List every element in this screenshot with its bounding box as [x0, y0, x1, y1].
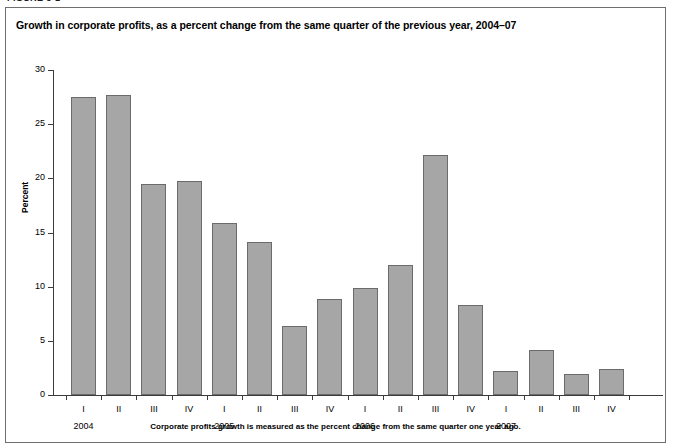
y-axis-tick-mark: [48, 178, 53, 179]
x-axis-quarter-label: IV: [456, 404, 486, 414]
y-axis-tick-label: 25: [35, 118, 45, 128]
x-axis-quarter-label: III: [280, 404, 310, 414]
y-axis-tick-mark: [48, 233, 53, 234]
y-axis-tick-label: 10: [35, 281, 45, 291]
chart-title: Growth in corporate profits, as a percen…: [16, 19, 516, 31]
bar: [423, 155, 448, 396]
x-axis-quarter-label: IV: [597, 404, 627, 414]
x-axis-tick-mark: [101, 395, 102, 400]
bar: [106, 95, 131, 395]
y-axis-tick-label: 30: [35, 64, 45, 74]
x-axis-quarter-label: II: [245, 404, 275, 414]
bar: [212, 223, 237, 395]
x-axis-tick-mark: [488, 395, 489, 400]
y-axis-tick-mark: [48, 70, 53, 71]
bar: [599, 369, 624, 395]
y-axis-tick-mark: [48, 287, 53, 288]
bar: [247, 242, 272, 395]
y-axis-tick-label: 15: [35, 227, 45, 237]
y-axis-tick-label: 5: [40, 335, 45, 345]
figure-panel: Growth in corporate profits, as a percen…: [5, 7, 666, 443]
x-axis-tick-mark: [383, 395, 384, 400]
x-axis-quarter-label: I: [209, 404, 239, 414]
x-axis-line: [53, 395, 663, 396]
x-axis-tick-mark: [136, 395, 137, 400]
x-axis-quarter-label: II: [104, 404, 134, 414]
x-axis-quarter-label: II: [385, 404, 415, 414]
x-axis-tick-mark: [594, 395, 595, 400]
x-axis-tick-mark: [524, 395, 525, 400]
y-axis-tick-label: 20: [35, 172, 45, 182]
bar: [458, 305, 483, 395]
y-axis-tick-mark: [48, 395, 53, 396]
x-axis-tick-mark: [207, 395, 208, 400]
x-axis-tick-mark: [242, 395, 243, 400]
x-axis-tick-mark: [453, 395, 454, 400]
x-axis-quarter-label: I: [350, 404, 380, 414]
bar: [529, 350, 554, 396]
bar: [353, 288, 378, 395]
y-axis-tick-mark: [48, 341, 53, 342]
x-axis-tick-mark: [348, 395, 349, 400]
x-axis-quarter-label: IV: [174, 404, 204, 414]
y-axis-tick-mark: [48, 124, 53, 125]
x-axis-tick-mark: [172, 395, 173, 400]
x-axis-quarter-label: III: [421, 404, 451, 414]
x-axis-quarter-label: IV: [315, 404, 345, 414]
y-axis-line: [53, 70, 54, 395]
x-axis-quarter-label: I: [69, 404, 99, 414]
figure-label: FIGURE 3-1: [7, 0, 61, 3]
bar: [71, 97, 96, 395]
x-axis-quarter-label: III: [561, 404, 591, 414]
y-axis-title: Percent: [20, 182, 30, 213]
x-axis-quarter-label: II: [526, 404, 556, 414]
bar: [493, 371, 518, 395]
x-axis-quarter-label: I: [491, 404, 521, 414]
y-axis-tick-label: 0: [40, 389, 45, 399]
x-axis-tick-mark: [277, 395, 278, 400]
x-axis-tick-mark: [312, 395, 313, 400]
x-axis-tick-mark: [559, 395, 560, 400]
x-axis-quarter-label: III: [139, 404, 169, 414]
bar: [282, 326, 307, 395]
bar: [177, 181, 202, 396]
x-axis-tick-mark: [66, 395, 67, 400]
bar: [388, 265, 413, 395]
plot-area: 051015202530 IIIIIIIVIIIIIIIVIIIIIIIVIII…: [53, 70, 665, 395]
x-axis-tick-mark: [418, 395, 419, 400]
bar: [564, 374, 589, 395]
x-axis-tick-mark: [629, 395, 630, 400]
chart-footnote: Corporate profits growth is measured as …: [6, 422, 665, 431]
bar: [317, 299, 342, 395]
bar: [141, 184, 166, 395]
